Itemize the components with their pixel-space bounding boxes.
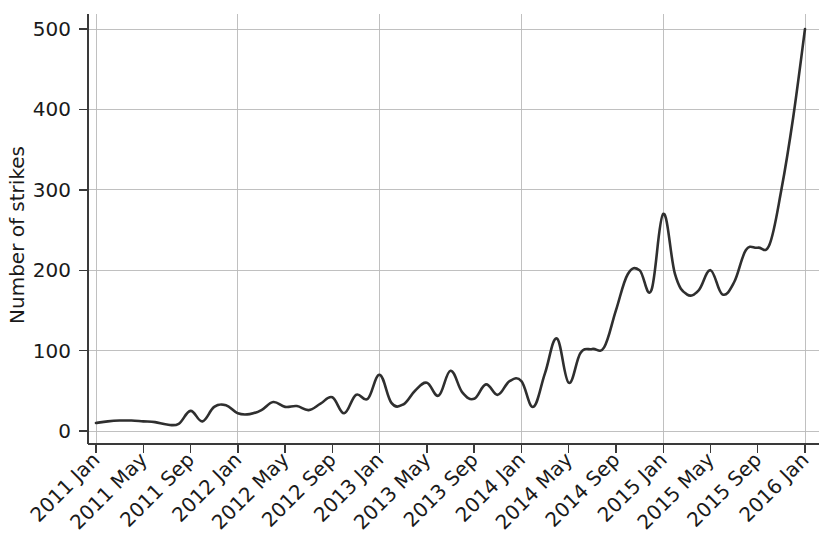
y-tick-label-500: 500: [33, 17, 71, 41]
y-axis: [79, 14, 88, 444]
y-tick-label-0: 0: [58, 419, 71, 443]
y-axis-title: Number of strikes: [5, 146, 29, 324]
y-tick-label-100: 100: [33, 339, 71, 363]
strikes-series-line: [96, 29, 805, 425]
x-tick-labels: 2011 Jan2011 May2011 Sep2012 Jan2012 May…: [25, 447, 813, 534]
x-axis: [88, 444, 819, 453]
y-tick-label-300: 300: [33, 178, 71, 202]
line-chart: 0100200300400500 2011 Jan2011 May2011 Se…: [0, 0, 822, 556]
horizontal-gridlines: [88, 29, 819, 431]
y-tick-label-400: 400: [33, 97, 71, 121]
y-tick-label-200: 200: [33, 258, 71, 282]
vertical-gridlines: [96, 14, 805, 444]
chart-container: 0100200300400500 2011 Jan2011 May2011 Se…: [0, 0, 822, 556]
y-tick-labels: 0100200300400500: [33, 17, 71, 443]
